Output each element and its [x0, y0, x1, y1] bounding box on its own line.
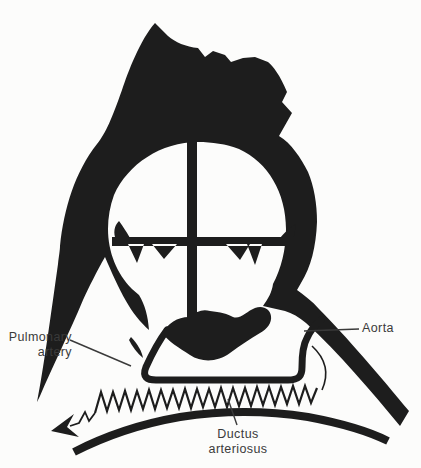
aorta-label: Aorta — [362, 321, 394, 336]
ductus-arteriosus-label-line2: arteriosus — [194, 442, 282, 457]
ring-flick — [129, 337, 143, 358]
heart-silhouette — [37, 23, 409, 426]
septum-bar — [187, 141, 197, 328]
ductus-arteriosus-label-line1: Ductus — [194, 427, 282, 442]
aorta-flow-curve — [312, 346, 326, 390]
valve-crossbar — [112, 221, 296, 265]
fetal-heart-diagram: Pulmonary artery Aorta Ductus arteriosus — [0, 0, 421, 468]
pulmonary-artery-label: Pulmonary artery — [6, 330, 72, 359]
pulmonary-artery-leader-line — [70, 340, 131, 366]
ductus-zigzag — [95, 386, 317, 413]
ductus-arteriosus-label: Ductus arteriosus — [194, 427, 282, 456]
pulmonary-artery-label-line1: Pulmonary — [6, 330, 72, 345]
heart-illustration — [0, 0, 421, 468]
pulmonary-trunk-blob — [162, 307, 271, 360]
pulmonary-artery-label-line2: artery — [6, 345, 72, 360]
zigzag-tail — [70, 412, 95, 426]
flow-arrow-icon — [51, 414, 79, 437]
